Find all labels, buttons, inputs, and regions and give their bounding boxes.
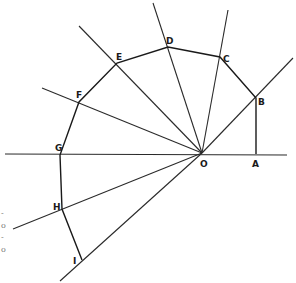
margin-mark: o bbox=[1, 221, 6, 230]
margin-mark: - bbox=[1, 209, 4, 218]
vertex-label-a: A bbox=[252, 159, 259, 169]
polygon-path bbox=[60, 47, 256, 260]
vertex-label-d: D bbox=[166, 36, 173, 46]
ray-OC bbox=[202, 10, 228, 153]
baseline bbox=[5, 154, 287, 155]
rays bbox=[5, 3, 293, 281]
ray-OF bbox=[42, 88, 202, 153]
vertex-label-e: E bbox=[116, 52, 122, 62]
ray-OD bbox=[153, 3, 202, 153]
ray-OI bbox=[60, 153, 202, 281]
vertex-labels: ABCDEFGHIO bbox=[53, 36, 265, 266]
polygon-edges bbox=[60, 47, 256, 260]
center-label-o: O bbox=[200, 159, 208, 169]
vertex-label-i: I bbox=[73, 256, 76, 266]
ray-OB bbox=[202, 58, 293, 153]
margin-mark: o bbox=[1, 245, 6, 254]
margin-marks: -o-o bbox=[1, 209, 6, 254]
vertex-label-h: H bbox=[53, 202, 61, 212]
geometry-diagram: ABCDEFGHIO -o-o bbox=[0, 0, 296, 283]
ray-OE bbox=[79, 26, 202, 153]
vertex-label-g: G bbox=[55, 143, 62, 153]
vertex-label-b: B bbox=[258, 97, 265, 107]
vertex-label-f: F bbox=[76, 90, 82, 100]
ray-OH bbox=[13, 153, 202, 229]
vertex-label-c: C bbox=[223, 54, 230, 64]
margin-mark: - bbox=[1, 233, 4, 242]
